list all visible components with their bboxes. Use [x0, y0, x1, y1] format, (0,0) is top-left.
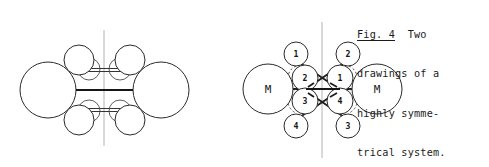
node-inner-lower-left-label: 3: [303, 96, 308, 106]
caption-line-1: Fig. 4 Two: [357, 28, 489, 41]
node-bottom-left-label: 4: [294, 121, 299, 131]
metal-sphere-right: [133, 62, 189, 118]
figure-caption: Fig. 4 Two drawings of a highly symme- t…: [357, 2, 489, 167]
caption-line-3: highly symme-: [357, 107, 489, 120]
node-inner-upper-right-label: 1: [338, 73, 343, 83]
caption-figure-label: Fig. 4: [357, 29, 395, 40]
metal-sphere-left: [20, 62, 76, 118]
node-inner-lower-right-label: 4: [338, 96, 343, 106]
caption-line-4: trical system.: [357, 146, 489, 159]
caption-line-2: drawings of a: [357, 67, 489, 80]
figure-container: M M 2 1 3 4 1 2 4 3: [0, 0, 489, 167]
metal-node-left-label: M: [265, 83, 272, 96]
left-diagram-group: [20, 30, 189, 146]
node-top-left-label: 1: [294, 49, 299, 59]
node-bottom-right-label: 3: [346, 121, 351, 131]
caption-line-1-rest: Two: [395, 29, 427, 40]
node-inner-upper-left-label: 2: [303, 73, 308, 83]
node-top-right-label: 2: [346, 49, 351, 59]
